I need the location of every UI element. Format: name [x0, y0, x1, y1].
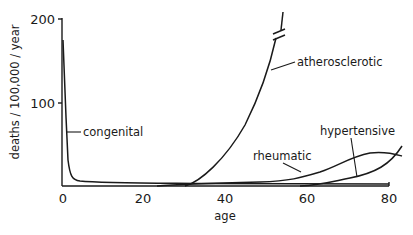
rheumatic-label: rheumatic [253, 149, 311, 163]
y-tick-label-200: 200 [30, 12, 55, 27]
y-tick-label-100: 100 [30, 96, 55, 111]
x-tick-label-20: 20 [135, 191, 152, 206]
axes [58, 18, 389, 186]
atherosclerotic-curve [185, 38, 276, 186]
y-axis-label: deaths / 100,000 / year [8, 24, 22, 159]
x-tick-label-60: 60 [299, 191, 316, 206]
x-axis-label: age [214, 209, 235, 223]
x-tick-label-0: 0 [59, 191, 67, 206]
congenital-label: congenital [83, 125, 143, 139]
atherosclerotic-leader [271, 62, 295, 70]
series [63, 12, 402, 186]
atherosclerotic-label: atherosclerotic [297, 55, 383, 69]
hypertensive-label: hypertensive [320, 124, 395, 138]
axis-break-icon [273, 29, 285, 40]
x-tick-label-40: 40 [217, 191, 234, 206]
leaders [67, 62, 357, 177]
hypertensive-curve [300, 146, 402, 186]
chart-canvas: 200 100 0 20 40 60 80 age deaths / 100,0… [0, 0, 413, 235]
atherosclerotic-curve-top [281, 12, 283, 30]
rheumatic-leader [283, 163, 301, 172]
x-tick-label-80: 80 [381, 191, 398, 206]
